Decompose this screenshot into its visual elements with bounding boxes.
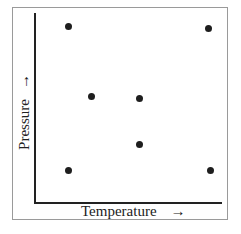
data-point: [65, 167, 72, 174]
arrow-up-icon: →: [16, 74, 33, 89]
data-point: [65, 23, 72, 30]
plot-area: [35, 13, 222, 203]
x-axis-title: Temperature: [81, 203, 157, 220]
data-point: [88, 93, 95, 100]
y-axis-label: Pressure →: [16, 74, 33, 150]
y-axis-title: Pressure: [16, 99, 33, 150]
data-point: [136, 95, 143, 102]
x-axis-label: Temperature →: [81, 203, 186, 220]
data-point: [207, 167, 214, 174]
data-point: [136, 141, 143, 148]
data-point: [205, 25, 212, 32]
arrow-right-icon: →: [171, 203, 186, 220]
